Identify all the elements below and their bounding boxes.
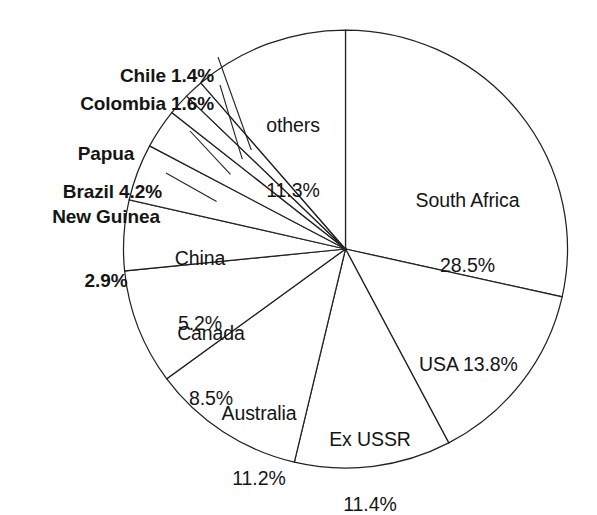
slice-label-others-line2: 11.3% <box>243 180 343 202</box>
slice-label-usa-line1: USA 13.8% <box>419 354 569 376</box>
slice-label-others-line1: others <box>243 115 343 137</box>
slice-label-usa: USA 13.8% <box>419 310 569 419</box>
slice-label-others: others 11.3% <box>243 71 343 246</box>
slice-label-ex-ussr-line2: 11.4% <box>315 494 425 515</box>
slice-label-ex-ussr-line1: Ex USSR <box>315 429 425 451</box>
slice-label-south-africa-line1: South Africa <box>395 190 540 212</box>
slice-label-south-africa: South Africa 28.5% <box>395 146 540 321</box>
slice-label-brazil: Brazil 4.2% <box>10 160 162 224</box>
slice-label-australia-line2: 11.2% <box>199 468 319 490</box>
slice-label-australia: Australia 11.2% <box>199 359 319 515</box>
slice-label-brazil-text: Brazil 4.2% <box>63 181 162 202</box>
slice-label-china-line1: China <box>150 248 250 270</box>
slice-label-canada-line1: Canada <box>156 323 266 345</box>
slice-label-ex-ussr: Ex USSR 11.4% <box>315 385 425 515</box>
slice-label-australia-line1: Australia <box>199 403 319 425</box>
slice-label-south-africa-line2: 28.5% <box>395 255 540 277</box>
